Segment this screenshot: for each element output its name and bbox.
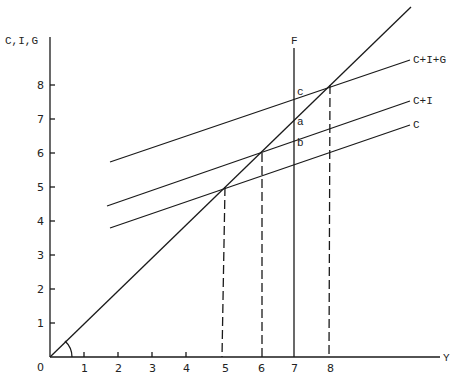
y-axis-label: C,I,G (5, 35, 38, 47)
y-ticks: 1 2 3 4 5 6 7 8 (37, 79, 55, 330)
c-i-g-line (110, 60, 410, 162)
angle-arc-icon (65, 341, 72, 357)
c-label: C (413, 119, 420, 131)
svg-text:2: 2 (115, 362, 122, 375)
svg-text:4: 4 (183, 362, 190, 375)
forty-five-degree-line (50, 7, 411, 357)
keynesian-cross-diagram: C,I,G Y 0 1 2 3 4 5 6 7 8 1 2 3 4 5 6 7 … (0, 0, 461, 381)
svg-text:7: 7 (291, 362, 298, 375)
origin-label: 0 (37, 361, 44, 374)
c-i-g-label: C+I+G (413, 54, 446, 66)
x-axis-label: Y (443, 352, 450, 364)
svg-text:5: 5 (222, 362, 229, 375)
svg-text:8: 8 (37, 79, 44, 92)
svg-text:1: 1 (37, 317, 44, 330)
svg-text:7: 7 (37, 113, 44, 126)
point-a-label: a (297, 116, 304, 128)
svg-text:2: 2 (37, 283, 44, 296)
f-label: F (291, 35, 298, 47)
x-ticks: 1 2 3 4 5 6 7 8 (81, 352, 334, 375)
c-i-label: C+I (413, 95, 433, 107)
equilibrium-drop-5 (222, 187, 225, 357)
svg-text:3: 3 (149, 362, 156, 375)
c-i-line (107, 101, 410, 206)
svg-text:6: 6 (37, 147, 44, 160)
c-line (110, 125, 410, 228)
equilibrium-drop-8 (329, 85, 330, 357)
svg-text:6: 6 (258, 362, 265, 375)
point-c-label: c (297, 86, 304, 98)
svg-text:1: 1 (81, 362, 88, 375)
svg-text:4: 4 (37, 215, 44, 228)
svg-text:5: 5 (37, 181, 44, 194)
svg-text:3: 3 (37, 249, 44, 262)
svg-text:8: 8 (327, 362, 334, 375)
point-b-label: b (297, 137, 304, 149)
